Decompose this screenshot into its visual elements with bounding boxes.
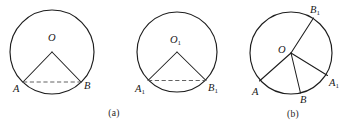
subscript-B1: 1 (214, 87, 218, 95)
label-point-A-left: A (12, 83, 20, 94)
subscript-O1: 1 (178, 39, 182, 47)
figure-canvas: O A B O1 A1 B1 O A B A1 B1 (a) (0, 0, 357, 127)
radius-O-to-B1-right (291, 18, 314, 53)
label-point-A1-middle: A1 (134, 83, 145, 96)
radius-O-to-A-right (260, 53, 292, 81)
geometry-figure: O A B O1 A1 B1 O A B A1 B1 (a) (0, 0, 357, 127)
radius-O1-to-A1-middle (148, 52, 177, 81)
label-center-O-right: O (278, 44, 286, 55)
label-point-A1-right: A1 (328, 77, 339, 90)
label-center-O-left: O (48, 32, 56, 43)
label-point-B-left: B (84, 80, 91, 91)
radius-O-to-A-left (23, 52, 52, 82)
label-point-B1-middle: B1 (208, 82, 218, 95)
subscript-A1-right: 1 (335, 82, 339, 90)
radius-O1-to-B1-middle (177, 52, 206, 81)
circle-group-left: O A B (10, 10, 94, 94)
radius-O-to-A1-right (291, 53, 328, 76)
circle-group-middle: O1 A1 B1 (134, 12, 218, 96)
subscript-A1: 1 (141, 88, 145, 96)
label-point-B1-right: B1 (310, 4, 320, 17)
label-point-A-right: A (251, 86, 259, 97)
radius-O-to-B-right (291, 53, 301, 93)
caption-a: (a) (108, 108, 119, 119)
radius-O-to-B-left (52, 52, 81, 82)
circle-group-right: O A B A1 B1 (250, 4, 339, 105)
caption-b: (b) (287, 109, 299, 120)
label-center-O1-middle: O1 (170, 34, 182, 47)
subscript-B1-right: 1 (316, 9, 320, 17)
label-point-B-right: B (300, 94, 307, 105)
